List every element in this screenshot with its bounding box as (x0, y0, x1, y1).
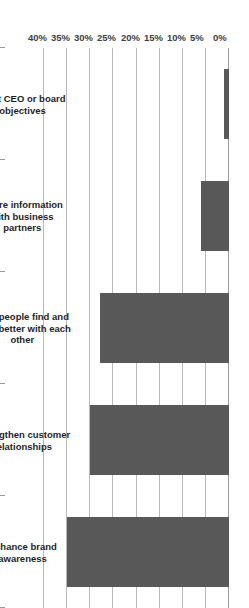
category-tick-mark (0, 495, 5, 496)
category-axis-labels: Enhance brand awarenessStrengthen custom… (0, 48, 44, 608)
category-label: Enhance brand awareness (0, 496, 44, 608)
category-label-text: Strengthen customer relationships (0, 429, 72, 452)
rotated-chart-canvas: 40%35%30%25%20%15%10%5%0% Enhance brand … (0, 0, 249, 608)
bar[interactable] (100, 293, 230, 362)
category-label: Strengthen customer relationships (0, 384, 44, 496)
value-axis-ticks: 40%35%30%25%20%15%10%5%0% (44, 0, 229, 48)
category-label-text: Meet CEO or board objectives (0, 93, 72, 116)
value-tick-label: 0% (213, 32, 249, 44)
category-tick-mark (0, 271, 5, 272)
category-tick-mark (0, 159, 5, 160)
category-label: Help people find and work better with ea… (0, 272, 44, 384)
category-label-text: Help people find and work better with ea… (0, 311, 72, 346)
category-label: Meet CEO or board objectives (0, 48, 44, 160)
bar-chart: 40%35%30%25%20%15%10%5%0% Enhance brand … (0, 0, 249, 608)
category-label-text: Enhance brand awareness (0, 541, 72, 564)
bar[interactable] (67, 517, 229, 586)
bar[interactable] (201, 181, 229, 250)
bar[interactable] (224, 69, 229, 138)
category-tick-mark (0, 47, 5, 48)
category-label-text: Share information with business partners (0, 199, 72, 234)
category-label: Share information with business partners (0, 160, 44, 272)
bar[interactable] (90, 405, 229, 474)
category-tick-mark (0, 383, 5, 384)
